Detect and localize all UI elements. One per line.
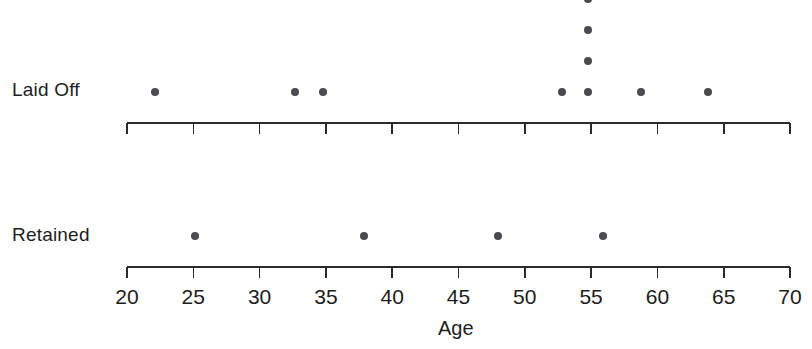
x-tick-label: 50 (513, 286, 536, 307)
x-tick-label: 40 (381, 286, 404, 307)
x-tick-label: 70 (778, 286, 801, 307)
x-tick-label: 20 (115, 286, 138, 307)
x-tick-label: 25 (182, 286, 205, 307)
x-tick-label: 60 (646, 286, 669, 307)
x-tick-label: 30 (248, 286, 271, 307)
x-tick-label: 35 (314, 286, 337, 307)
dotplot-figure: Laid Off Retained 2025303540455055606570… (0, 0, 812, 349)
x-tick-label: 55 (579, 286, 602, 307)
x-tick-label: 45 (447, 286, 470, 307)
x-axis-title: Age (438, 318, 474, 338)
x-tick-label: 65 (712, 286, 735, 307)
